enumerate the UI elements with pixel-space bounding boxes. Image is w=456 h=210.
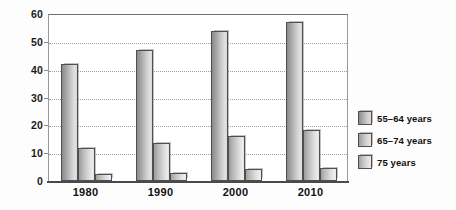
legend-swatch-75-plus-icon [358, 155, 372, 169]
bar-group-2010 [274, 14, 349, 181]
bar-1990-series-1 [136, 50, 153, 181]
y-tick-label-40: 40 [3, 64, 43, 76]
legend: 55–64 years 65–74 years 75 years [358, 108, 454, 174]
legend-item-75-plus: 75 years [358, 152, 454, 172]
legend-swatch-65-74-icon [358, 133, 372, 147]
bar-group-1990 [124, 14, 199, 181]
y-tick-label-10: 10 [3, 147, 43, 159]
legend-swatch-55-64-icon [358, 111, 372, 125]
bar-1990-series-3 [170, 173, 187, 181]
x-tick-label-1990: 1990 [123, 186, 198, 198]
bar-2010-series-1 [286, 22, 303, 181]
y-tick-label-50: 50 [3, 36, 43, 48]
bar-2000-series-1 [211, 31, 228, 181]
y-tick-label-60: 60 [3, 8, 43, 20]
legend-label-75-plus: 75 years [377, 157, 416, 168]
bar-1980-series-2 [78, 148, 95, 181]
bar-1990-series-2 [153, 143, 170, 181]
x-tick-label-2000: 2000 [198, 186, 273, 198]
y-axis: 6050403020100 [0, 0, 43, 210]
bar-2010-series-3 [320, 168, 337, 181]
bar-group-1980 [49, 14, 124, 181]
legend-label-65-74: 65–74 years [377, 135, 432, 146]
y-tick-label-0: 0 [3, 175, 43, 187]
x-axis-baseline [47, 181, 349, 183]
legend-item-65-74: 65–74 years [358, 130, 454, 150]
plot-area [48, 14, 348, 181]
bar-2000-series-2 [228, 136, 245, 181]
legend-label-55-64: 55–64 years [377, 113, 432, 124]
x-tick-label-1980: 1980 [48, 186, 123, 198]
bar-2000-series-3 [245, 169, 262, 181]
legend-item-55-64: 55–64 years [358, 108, 454, 128]
y-tick-label-20: 20 [3, 119, 43, 131]
bar-1980-series-1 [61, 64, 78, 181]
bar-2010-series-2 [303, 130, 320, 181]
bar-chart-figure: 6050403020100 1980199020002010 55–64 yea… [0, 0, 456, 210]
bar-group-2000 [199, 14, 274, 181]
bar-1980-series-3 [95, 174, 112, 181]
y-tick-label-30: 30 [3, 92, 43, 104]
x-tick-label-2010: 2010 [273, 186, 348, 198]
